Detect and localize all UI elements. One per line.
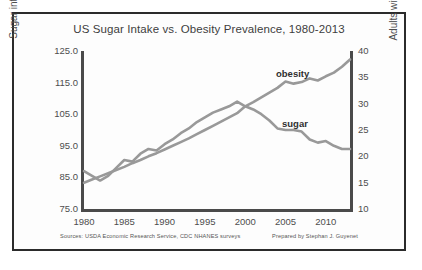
line-sugar xyxy=(84,102,350,181)
y-tick-right: 30 xyxy=(358,98,386,109)
y-tick-right: 35 xyxy=(358,71,386,82)
y-tick-right: 40 xyxy=(358,45,386,56)
x-tick: 1980 xyxy=(64,216,104,227)
x-tick: 1995 xyxy=(185,216,225,227)
series-label-sugar: sugar xyxy=(282,118,308,129)
y-axis-right-spine xyxy=(350,51,353,209)
footer-sources: Sources: USDA Economic Research Service,… xyxy=(60,233,240,239)
x-tick: 1985 xyxy=(104,216,144,227)
y-tick-left: 75.0 xyxy=(34,203,78,214)
series-label-obesity: obesity xyxy=(276,68,309,79)
y-tick-right: 10 xyxy=(358,203,386,214)
y-tick-right: 25 xyxy=(358,124,386,135)
y-tick-left: 85.0 xyxy=(34,171,78,182)
x-axis-spine xyxy=(81,209,353,212)
x-tick: 2000 xyxy=(225,216,265,227)
chart-figure: US Sugar Intake vs. Obesity Prevalence, … xyxy=(12,12,406,251)
x-tick: 2005 xyxy=(266,216,306,227)
x-tick: 2010 xyxy=(306,216,346,227)
x-tick: 1990 xyxy=(145,216,185,227)
y-tick-left: 115.0 xyxy=(34,77,78,88)
y-tick-right: 20 xyxy=(358,150,386,161)
y-tick-left: 105.0 xyxy=(34,108,78,119)
y-tick-left: 95.0 xyxy=(34,140,78,151)
y-axis-right-title: Adults with obesity (%) xyxy=(388,0,399,60)
line-obesity xyxy=(84,59,350,182)
series-lines xyxy=(84,51,350,209)
plot-area xyxy=(84,51,350,209)
y-tick-left: 125.0 xyxy=(34,45,78,56)
chart-title: US Sugar Intake vs. Obesity Prevalence, … xyxy=(14,23,404,35)
footer-credit: Prepared by Stephan J. Guyenet xyxy=(272,233,358,239)
y-tick-right: 15 xyxy=(358,177,386,188)
y-axis-left-title: Sugar intake (g/person/day) xyxy=(8,0,19,52)
